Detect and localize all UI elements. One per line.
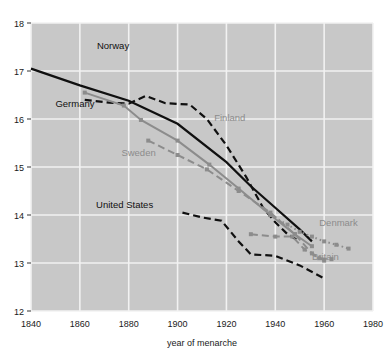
data-point-marker (249, 232, 253, 236)
x-tick-label: 1900 (168, 319, 188, 329)
menarche-line-chart: 1840186018801900192019401960198012131415… (0, 0, 386, 354)
data-point-marker (237, 189, 241, 193)
x-tick-label: 1920 (216, 319, 236, 329)
x-tick-label: 1960 (314, 319, 334, 329)
series-label-britain: Britain (312, 251, 339, 262)
series-label-united-states: United States (96, 199, 153, 210)
data-point-marker (286, 223, 290, 227)
x-tick-label: 1980 (363, 319, 383, 329)
y-tick-label: 15 (14, 163, 24, 173)
series-label-denmark: Denmark (319, 217, 358, 228)
y-tick-label: 12 (14, 307, 24, 317)
x-tick-label: 1860 (70, 319, 90, 329)
data-point-marker (139, 118, 143, 122)
data-point-marker (207, 163, 211, 167)
series-label-norway: Norway (97, 40, 129, 51)
y-tick-label: 17 (14, 67, 24, 77)
data-point-marker (205, 167, 209, 171)
x-tick-label: 1940 (265, 319, 285, 329)
data-point-marker (122, 104, 126, 108)
y-tick-label: 18 (14, 19, 24, 29)
data-point-marker (310, 244, 314, 248)
y-tick-label: 13 (14, 259, 24, 269)
data-point-marker (268, 213, 272, 217)
data-point-marker (298, 230, 302, 234)
x-tick-label: 1880 (119, 319, 139, 329)
x-axis-title: year of menarche (167, 338, 237, 348)
data-point-marker (273, 235, 277, 239)
data-point-marker (176, 139, 180, 143)
chart-figure: 1840186018801900192019401960198012131415… (0, 0, 386, 354)
data-point-marker (310, 235, 314, 239)
series-label-finland: Finland (214, 112, 245, 123)
data-point-marker (290, 235, 294, 239)
y-tick-label: 16 (14, 115, 24, 125)
y-tick-label: 14 (14, 211, 24, 221)
data-point-marker (176, 153, 180, 157)
data-point-marker (334, 243, 338, 247)
series-label-sweden: Sweden (121, 147, 155, 158)
data-point-marker (146, 139, 150, 143)
x-tick-label: 1840 (21, 319, 41, 329)
series-label-germany: Germany (55, 98, 94, 109)
data-point-marker (83, 91, 87, 95)
data-point-marker (347, 247, 351, 251)
data-point-marker (322, 239, 326, 243)
data-point-marker (303, 248, 307, 252)
